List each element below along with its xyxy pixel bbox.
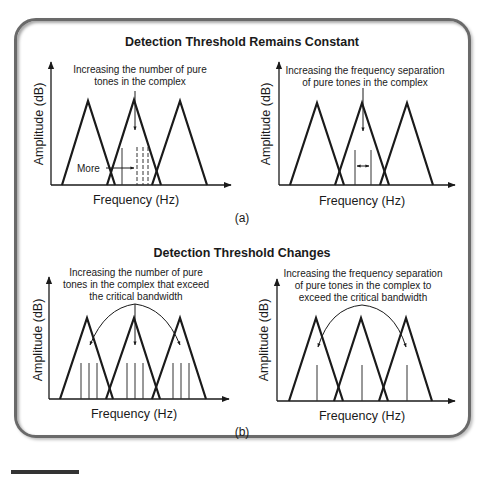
y-axis-label: Amplitude (dB): [257, 299, 271, 382]
annotation-line: Increasing the frequency separation: [284, 268, 443, 279]
y-axis-label: Amplitude (dB): [259, 83, 273, 166]
annotation-line: Increasing the number of pure: [69, 267, 203, 278]
filter-triangle-3: [152, 101, 207, 185]
x-axis-label: Frequency (Hz): [91, 407, 177, 421]
annotation-line: tones in the complex that exceed: [63, 279, 209, 290]
filter-triangle-3: [380, 103, 433, 185]
filter-triangle-3: [379, 318, 432, 401]
filter-triangle-2: [106, 318, 160, 399]
panel-a-left-plot: More Increasing the number of pure tones…: [32, 62, 231, 207]
panel-a-caption: (a): [235, 211, 250, 225]
filter-triangle-3: [152, 318, 206, 399]
x-axis-label: Frequency (Hz): [93, 193, 179, 207]
filter-triangle-2: [334, 318, 388, 401]
tone-lines: [81, 363, 189, 399]
more-label: More: [77, 163, 100, 174]
annotation-line: Increasing the frequency separation: [286, 65, 445, 76]
panel-b-caption: (b): [235, 425, 250, 439]
filter-triangle-2: [335, 103, 389, 185]
filter-triangle-2: [107, 100, 161, 185]
annotation-line: of pure tones in the complex: [302, 77, 428, 88]
curved-arrow-left: [90, 304, 135, 345]
y-axis-label: Amplitude (dB): [32, 83, 46, 166]
curved-arrow-left: [318, 305, 362, 347]
filter-triangle-1: [290, 103, 344, 185]
panel-b-right-plot: Increasing the frequency separation of p…: [257, 268, 455, 423]
annotation-line: Increasing the number of pure: [73, 64, 207, 75]
figure-diagram: Detection Threshold Remains Constant Mor…: [0, 0, 485, 478]
panel-b-title: Detection Threshold Changes: [153, 246, 330, 260]
panel-a-title: Detection Threshold Remains Constant: [125, 35, 360, 49]
annotation-line: tones in the complex: [94, 76, 186, 87]
x-axis-label: Frequency (Hz): [319, 409, 405, 423]
annotation-line: exceed the critical bandwidth: [299, 292, 427, 303]
annotation-line: the critical bandwidth: [89, 291, 182, 302]
annotation-line: of pure tones in the complex to: [295, 280, 432, 291]
filter-triangle-1: [60, 318, 113, 399]
panel-b-left-plot: Increasing the number of pure tones in t…: [31, 267, 229, 421]
filter-triangle-1: [289, 318, 343, 401]
tone-lines: [317, 365, 407, 401]
panel-a-right-plot: Increasing the frequency separation of p…: [259, 62, 455, 208]
x-axis-label: Frequency (Hz): [319, 194, 405, 208]
y-axis-label: Amplitude (dB): [31, 299, 45, 382]
